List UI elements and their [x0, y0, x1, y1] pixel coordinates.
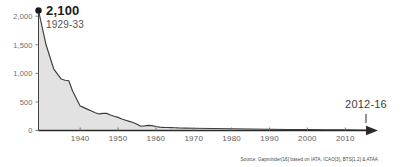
y-tick-label: 500: [20, 98, 33, 107]
x-tick-label: 1970: [184, 134, 203, 143]
start-callout-value: 2,100: [46, 3, 80, 18]
x-tick-label: 2010: [336, 134, 355, 143]
x-tick-label: 1990: [260, 134, 279, 143]
x-tick-label: 2000: [298, 134, 317, 143]
chart-canvas: 05001,0001,5002,000 19401950196019701980…: [0, 0, 402, 167]
x-tick-label: 1950: [109, 134, 128, 143]
x-tick-label: 1980: [222, 134, 241, 143]
area-fill: [39, 11, 369, 131]
x-axis-arrowhead: [366, 126, 378, 135]
y-tick-label: 1,000: [13, 69, 32, 78]
y-tick-label: 1,500: [13, 41, 32, 50]
plane-crash-deaths-chart: 05001,0001,5002,000 19401950196019701980…: [0, 0, 402, 167]
x-tick-label: 1960: [147, 134, 166, 143]
x-tick-label: 1940: [71, 134, 90, 143]
y-axis-ticks: 05001,0001,5002,000: [13, 12, 38, 135]
y-tick-label: 2,000: [13, 12, 32, 21]
start-callout-period: 1929-33: [46, 19, 84, 30]
source-credit: Source: Gapminder[16] based on IATA, ICA…: [240, 157, 378, 162]
start-data-point-marker: [35, 7, 41, 13]
y-tick-label: 0: [28, 126, 32, 135]
end-callout-period: 2012-16: [345, 98, 387, 110]
